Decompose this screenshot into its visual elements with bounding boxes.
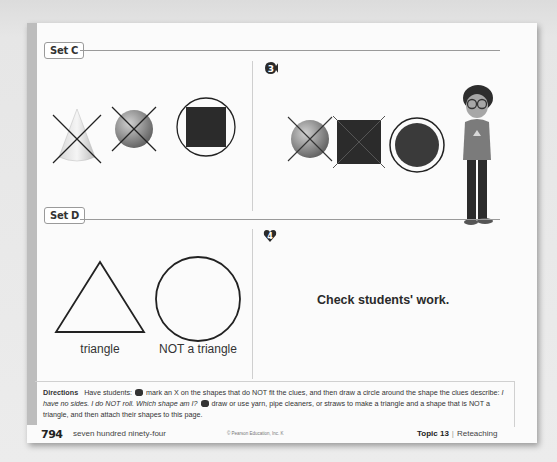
problem-4-badge-icon: 4 [263,229,277,242]
svg-text:4: 4 [267,232,273,241]
character-girl-illustration [455,80,505,230]
set-d-rule [80,219,500,220]
directions-heading: Directions [43,388,78,397]
sphere-crossed-icon [108,103,160,155]
copyright: © Pearson Education, Inc. K [227,431,284,436]
answer-text: Check students' work. [317,293,449,307]
directions-box: Directions Have students: mark an X on t… [35,381,515,427]
circle-icon [152,253,244,345]
svg-text:3: 3 [268,64,274,74]
page-edge-strip [27,23,37,425]
set-c-divider [252,61,253,211]
set-c-rule [80,50,500,51]
cube-circled-icon [175,96,237,158]
cube-crossed-icon [331,114,387,170]
workbook-page: Set C 3 [27,23,537,443]
set-c-label: Set C [44,42,84,59]
set-d-divider [252,229,253,379]
triangle-icon [52,258,148,338]
problem-3-inline-icon [135,389,143,396]
set-d-label: Set D [44,207,85,224]
directions-lead: Have students: [84,388,132,397]
section-name: Reteaching [457,429,497,438]
footer-separator: | [452,429,454,438]
directions-part3: mark an X on the shapes that do NOT fit … [146,388,499,397]
cone-crossed-icon [45,101,105,171]
sphere-crossed-icon [284,113,336,165]
page-number: 794 [41,428,62,441]
not-triangle-caption: NOT a triangle [142,342,254,356]
problem-3-badge-icon: 3 [264,61,278,74]
topic-label: Topic 13 [417,429,449,438]
page-number-words: seven hundred ninety-four [73,429,166,438]
triangle-caption: triangle [65,342,135,356]
problem-4-inline-icon [201,400,209,407]
cylinder-circled-icon [388,116,446,174]
topic-footer: Topic 13|Reteaching [417,429,497,438]
